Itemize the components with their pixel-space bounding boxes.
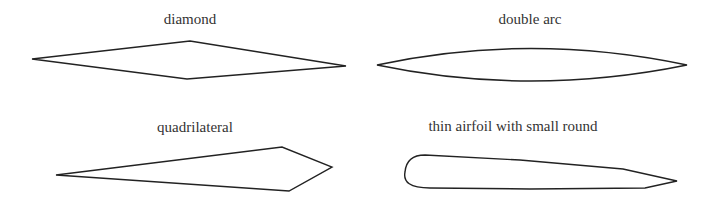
double-arc-shape	[377, 49, 687, 82]
airfoil-shapes-figure: diamond double arc quadrilateral thin ai…	[0, 0, 719, 203]
quadrilateral-shape	[56, 147, 332, 191]
diamond-shape	[32, 41, 346, 79]
shapes-canvas	[0, 0, 719, 203]
quadrilateral-label: quadrilateral	[157, 120, 233, 135]
diamond-label: diamond	[164, 12, 217, 27]
thin-airfoil-shape	[405, 155, 677, 189]
thin-airfoil-label: thin airfoil with small round	[428, 119, 597, 134]
double-arc-label: double arc	[499, 12, 562, 27]
